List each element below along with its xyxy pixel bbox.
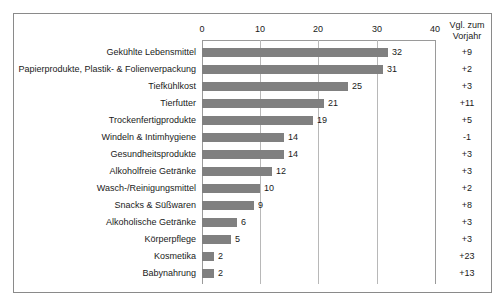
category-label: Tiefkühlkost [18, 81, 196, 92]
bar-value-label: 2 [218, 251, 223, 262]
comparison-value: -1 [441, 132, 493, 143]
bar [202, 116, 313, 125]
bar [202, 82, 348, 91]
comparison-value: +23 [441, 251, 493, 262]
x-tick-0: 0 [190, 24, 214, 35]
bar-value-label: 10 [264, 183, 274, 194]
chart-row: Tierfutter 21 +11 [0, 95, 503, 112]
category-label: Papierprodukte, Plastik- & Folienverpack… [18, 64, 196, 75]
bar-value-label: 14 [288, 132, 298, 143]
bar [202, 65, 383, 74]
category-label: Trockenfertigprodukte [18, 115, 196, 126]
chart-row: Wasch-/Reinigungsmittel 10 +2 [0, 180, 503, 197]
bar [202, 184, 260, 193]
bar-value-label: 25 [352, 81, 362, 92]
bar-value-label: 12 [276, 166, 286, 177]
bar [202, 99, 324, 108]
bar [202, 269, 214, 278]
bar [202, 167, 272, 176]
comparison-value: +2 [441, 183, 493, 194]
chart-row: Windeln & Intimhygiene 14 -1 [0, 129, 503, 146]
comparison-value: +3 [441, 81, 493, 92]
comparison-column-title: Vgl. zum Vorjahr [441, 20, 493, 42]
chart-row: Trockenfertigprodukte 19 +5 [0, 112, 503, 129]
category-label: Wasch-/Reinigungsmittel [18, 183, 196, 194]
bar-value-label: 32 [392, 47, 402, 58]
comparison-value: +3 [441, 166, 493, 177]
chart-row: Gekühlte Lebensmittel 32 +9 [0, 44, 503, 61]
chart-row: Snacks & Süßwaren 9 +8 [0, 197, 503, 214]
comparison-column-title-line1: Vgl. zum [441, 20, 493, 31]
comparison-value: +3 [441, 234, 493, 245]
category-label: Tierfutter [18, 98, 196, 109]
bar [202, 150, 284, 159]
category-label: Babynahrung [18, 268, 196, 279]
chart-row: Alkoholfreie Getränke 12 +3 [0, 163, 503, 180]
chart-row: Papierprodukte, Plastik- & Folienverpack… [0, 61, 503, 78]
x-tick-30: 30 [365, 24, 389, 35]
comparison-value: +2 [441, 64, 493, 75]
chart-row: Alkoholische Getränke 6 +3 [0, 214, 503, 231]
bar [202, 133, 284, 142]
bar-value-label: 2 [218, 268, 223, 279]
bar-value-label: 9 [258, 200, 263, 211]
bar [202, 235, 231, 244]
chart-row: Gesundheitsprodukte 14 +3 [0, 146, 503, 163]
bar [202, 252, 214, 261]
x-tick-10: 10 [248, 24, 272, 35]
comparison-value: +13 [441, 268, 493, 279]
x-axis-tick-labels: 0 10 20 30 40 [0, 0, 503, 20]
bar [202, 48, 388, 57]
category-label: Snacks & Süßwaren [18, 200, 196, 211]
bar-value-label: 14 [288, 149, 298, 160]
bar-value-label: 21 [328, 98, 338, 109]
comparison-value: +9 [441, 47, 493, 58]
comparison-value: +3 [441, 149, 493, 160]
bar-value-label: 19 [317, 115, 327, 126]
category-label: Körperpflege [18, 234, 196, 245]
chart-screenshot: 0 10 20 30 40 Vgl. zum Vorjahr Gekühlte … [0, 0, 503, 308]
comparison-value: +11 [441, 98, 493, 109]
bar-value-label: 6 [241, 217, 246, 228]
chart-row: Tiefkühlkost 25 +3 [0, 78, 503, 95]
category-label: Gekühlte Lebensmittel [18, 47, 196, 58]
category-label: Alkoholische Getränke [18, 217, 196, 228]
category-label: Windeln & Intimhygiene [18, 132, 196, 143]
comparison-value: +3 [441, 217, 493, 228]
bar [202, 218, 237, 227]
category-label: Alkoholfreie Getränke [18, 166, 196, 177]
bar-value-label: 5 [235, 234, 240, 245]
bar [202, 201, 254, 210]
category-label: Kosmetika [18, 251, 196, 262]
chart-row: Körperpflege 5 +3 [0, 231, 503, 248]
chart-row: Kosmetika 2 +23 [0, 248, 503, 265]
x-tick-20: 20 [306, 24, 330, 35]
comparison-column-title-line2: Vorjahr [441, 31, 493, 42]
comparison-value: +5 [441, 115, 493, 126]
chart-row: Babynahrung 2 +13 [0, 265, 503, 282]
category-label: Gesundheitsprodukte [18, 149, 196, 160]
comparison-value: +8 [441, 200, 493, 211]
bar-value-label: 31 [387, 64, 397, 75]
